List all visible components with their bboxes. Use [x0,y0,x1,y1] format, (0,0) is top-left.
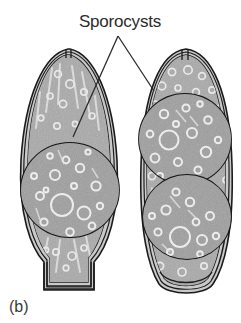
sporocysts-label: Sporocysts [79,12,161,31]
sporocyst-diagram: Sporocysts (b) [0,0,241,323]
leader-right [118,36,154,91]
figure-container: Sporocysts (b) [0,0,241,323]
oocyst-right [138,45,236,297]
oocyst-left [18,45,122,295]
figure-caption: (b) [9,298,29,315]
